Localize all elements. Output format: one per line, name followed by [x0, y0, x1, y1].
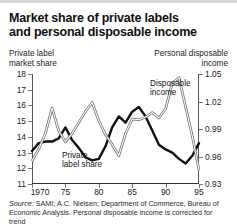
- right-tick-label: 0.99: [205, 124, 221, 134]
- source-label: Source:: [9, 199, 34, 208]
- right-axis-title-line-1: Personal disposable: [154, 49, 228, 58]
- left-tick-label: 18: [17, 69, 26, 79]
- left-axis-title: Private label market share: [9, 49, 57, 68]
- annotation-private-line-2: label share: [62, 160, 102, 169]
- x-tick-label: 95: [194, 187, 203, 197]
- page-title: Market share of private labels and perso…: [9, 11, 224, 39]
- x-tick-label: 90: [161, 187, 170, 197]
- series-line-private-label-share: [32, 107, 199, 164]
- x-tick-label: 1970: [31, 187, 50, 197]
- title-line-1: Market share of private labels: [9, 11, 179, 25]
- annotation-private-label-share: Private label share: [62, 151, 102, 170]
- left-tick-label: 16: [17, 100, 26, 110]
- right-axis-title: Personal disposable income: [154, 49, 228, 68]
- title-line-2: and personal disposable income: [9, 25, 224, 39]
- right-tick-mark: [199, 129, 203, 130]
- x-tick-label: 75: [61, 187, 70, 197]
- right-tick-label: 0.96: [205, 152, 221, 162]
- annotation-private-line-1: Private: [62, 151, 87, 160]
- left-tick-label: 11: [17, 179, 26, 189]
- right-tick-mark: [199, 157, 203, 158]
- left-tick-label: 14: [17, 132, 26, 142]
- source-note: Source: SAMI; A.C. Nielsen; Department o…: [9, 199, 230, 224]
- left-axis-title-line-2: market share: [9, 59, 57, 68]
- right-axis-title-line-2: income: [202, 59, 228, 68]
- left-axis-title-line-1: Private label: [9, 49, 54, 58]
- left-tick-label: 13: [17, 148, 26, 158]
- annotation-disposable-income: Disposable income: [150, 79, 191, 98]
- right-tick-mark: [199, 74, 203, 75]
- x-tick-label: 80: [94, 187, 103, 197]
- left-tick-label: 17: [17, 85, 26, 95]
- right-tick-mark: [199, 102, 203, 103]
- source-text: SAMI; A.C. Nielsen; Department of Commer…: [9, 199, 219, 224]
- left-tick-label: 12: [17, 163, 26, 173]
- right-tick-label: 1.02: [205, 97, 221, 107]
- annotation-disposable-line-1: Disposable: [150, 79, 191, 88]
- x-tick-label: 85: [128, 187, 137, 197]
- right-tick-label: 1.05: [205, 69, 221, 79]
- left-tick-label: 15: [17, 116, 26, 126]
- chart-figure: Market share of private labels and perso…: [0, 0, 237, 224]
- annotation-disposable-line-2: income: [150, 88, 176, 97]
- right-tick-label: 0.93: [205, 179, 221, 189]
